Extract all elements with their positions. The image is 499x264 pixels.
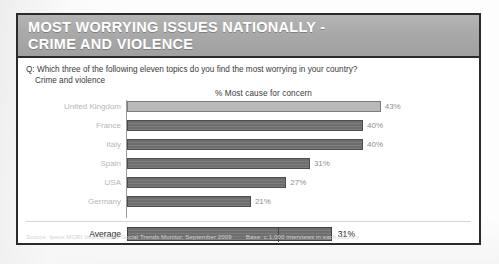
- bar-row: Spain31%: [26, 157, 471, 170]
- bar-value-label: 43%: [385, 100, 401, 113]
- source-base: Base: c.1,000 interviews in each country: [246, 233, 359, 240]
- bar-value-label: 31%: [314, 157, 330, 170]
- bar-row: USA27%: [26, 176, 471, 189]
- bar-category-label: Italy: [26, 138, 121, 151]
- survey-question-line-2: Crime and violence: [26, 75, 471, 86]
- slide-header-band: MOST WORRYING ISSUES NATIONALLY - CRIME …: [18, 15, 479, 58]
- bar-row: United Kingdom43%: [26, 100, 471, 113]
- average-separator: [26, 221, 471, 222]
- bar-category-label: USA: [26, 176, 121, 189]
- bar-row: Italy40%: [26, 138, 471, 151]
- survey-question: Q: Which three of the following eleven t…: [26, 64, 471, 86]
- bar: [127, 101, 381, 112]
- bar-row: France40%: [26, 119, 471, 132]
- bar-category-label: Spain: [26, 157, 121, 170]
- bar: [127, 177, 286, 188]
- slide-title: MOST WORRYING ISSUES NATIONALLY - CRIME …: [28, 19, 473, 53]
- slide-body: Q: Which three of the following eleven t…: [18, 58, 479, 243]
- bar: [127, 139, 363, 150]
- bar-value-label: 40%: [367, 119, 383, 132]
- bar-value-label: 27%: [290, 176, 306, 189]
- bar-row: Germany21%: [26, 195, 471, 208]
- bar: [127, 120, 363, 131]
- slide-frame: MOST WORRYING ISSUES NATIONALLY - CRIME …: [16, 13, 481, 245]
- bar: [127, 196, 251, 207]
- bar: [127, 158, 310, 169]
- bar-value-label: 40%: [367, 138, 383, 151]
- bar-category-label: Germany: [26, 195, 121, 208]
- chart-title: % Most cause for concern: [18, 89, 479, 98]
- bar-category-label: United Kingdom: [26, 100, 121, 113]
- source-text: Source: Ipsos MORI International Social …: [26, 233, 232, 240]
- bar-chart-plot-area: United Kingdom43%France40%Italy40%Spain3…: [26, 100, 471, 220]
- survey-question-line-1: Q: Which three of the following eleven t…: [26, 64, 471, 75]
- bar-category-label: France: [26, 119, 121, 132]
- source-note: Source: Ipsos MORI International Social …: [26, 233, 473, 240]
- bar-value-label: 21%: [255, 195, 271, 208]
